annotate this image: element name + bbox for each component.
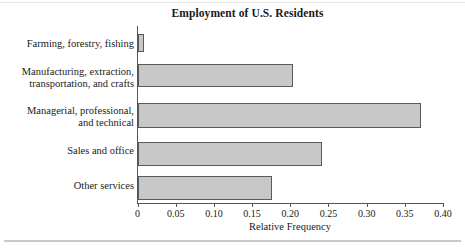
x-tick-label: 0.35 — [385, 208, 425, 219]
bar-chart: Employment of U.S. Residents Farming, fo… — [0, 0, 465, 250]
x-tick-mark — [176, 203, 177, 207]
x-tick-mark — [214, 203, 215, 207]
x-axis-title: Relative Frequency — [137, 221, 443, 232]
x-tick-mark — [252, 203, 253, 207]
x-tick-mark — [443, 203, 444, 207]
x-tick-mark — [405, 203, 406, 207]
x-tick-label: 0.20 — [270, 208, 310, 219]
x-tick-label: 0.25 — [308, 208, 348, 219]
bar-managerial — [138, 103, 421, 128]
x-tick-label: 0.05 — [156, 208, 196, 219]
bar-sales — [138, 142, 322, 166]
bar-manufacturing — [138, 64, 293, 87]
x-tick-mark — [367, 203, 368, 207]
x-tick-label: 0.15 — [232, 208, 272, 219]
category-label-manufacturing: Manufacturing, extraction, transportatio… — [22, 66, 134, 89]
x-tick-label: 0.10 — [194, 208, 234, 219]
x-tick-mark — [138, 203, 139, 207]
x-tick-mark — [328, 203, 329, 207]
page-bottom-rule — [4, 240, 461, 242]
category-label-farming: Farming, forestry, fishing — [27, 38, 134, 50]
x-tick-label: 0 — [118, 208, 158, 219]
x-tick-mark — [290, 203, 291, 207]
category-label-other: Other services — [74, 180, 134, 192]
x-tick-label: 0.30 — [347, 208, 387, 219]
bar-other — [138, 176, 272, 200]
category-label-managerial: Managerial, professional, and technical — [27, 105, 134, 128]
category-label-sales: Sales and office — [67, 145, 134, 157]
bar-farming — [138, 34, 144, 52]
x-tick-label: 0.40 — [423, 208, 463, 219]
chart-title: Employment of U.S. Residents — [0, 7, 465, 19]
